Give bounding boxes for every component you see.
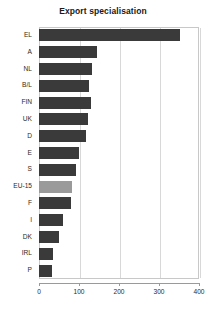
bar-row <box>39 128 199 145</box>
bar-row <box>39 178 199 195</box>
y-axis-label-nl: NL <box>24 61 32 78</box>
bar-dk <box>39 231 59 243</box>
bar-row <box>39 145 199 162</box>
x-tick-mark-100 <box>79 283 80 286</box>
y-axis-label-fin: FIN <box>21 94 32 111</box>
bar-row <box>39 161 199 178</box>
y-axis-label-e: E <box>28 145 32 162</box>
y-axis-label-el: EL <box>24 27 32 44</box>
x-tick-mark-200 <box>119 283 120 286</box>
bar-row <box>39 77 199 94</box>
bar-el <box>39 29 180 41</box>
bar-row <box>39 229 199 246</box>
y-axis-label-p: P <box>28 262 32 279</box>
bar-irl <box>39 248 53 260</box>
chart-title: Export specialisation <box>0 6 206 16</box>
y-axis-label-s: S <box>28 161 32 178</box>
x-tick-label-200: 200 <box>113 288 124 295</box>
chart-screenshot: Export specialisation ELANLB/LFINUKDESEU… <box>0 0 206 309</box>
bar-e <box>39 147 79 159</box>
bar-row <box>39 94 199 111</box>
y-axis-label-i: I <box>30 212 32 229</box>
bar-row <box>39 212 199 229</box>
x-tick-label-300: 300 <box>153 288 164 295</box>
bars-layer <box>39 27 199 279</box>
bar-row <box>39 262 199 279</box>
y-axis-label-b-l: B/L <box>22 77 32 94</box>
bar-row <box>39 61 199 78</box>
x-tick-mark-400 <box>199 283 200 286</box>
bar-s <box>39 164 76 176</box>
bar-row <box>39 27 199 44</box>
y-axis-label-irl: IRL <box>22 245 32 262</box>
y-axis-label-f: F <box>28 195 32 212</box>
y-axis-label-a: A <box>28 44 32 61</box>
x-tick-label-0: 0 <box>37 288 41 295</box>
y-axis-labels: ELANLB/LFINUKDESEU-15FIDKIRLP <box>0 27 36 279</box>
bar-eu-15 <box>39 181 72 193</box>
bar-row <box>39 245 199 262</box>
bar-row <box>39 111 199 128</box>
x-tick-label-400: 400 <box>193 288 204 295</box>
y-axis-label-eu-15: EU-15 <box>13 178 32 195</box>
bar-uk <box>39 113 88 125</box>
bar-f <box>39 197 71 209</box>
gridline-x-400 <box>200 28 201 278</box>
bar-p <box>39 265 52 277</box>
x-tick-mark-0 <box>39 283 40 286</box>
y-axis-label-d: D <box>27 128 32 145</box>
y-axis-label-dk: DK <box>23 229 32 246</box>
x-tick-mark-300 <box>159 283 160 286</box>
bar-b-l <box>39 80 89 92</box>
x-tick-label-100: 100 <box>73 288 84 295</box>
y-axis-label-uk: UK <box>23 111 32 128</box>
bar-nl <box>39 63 92 75</box>
bar-fin <box>39 97 91 109</box>
bar-row <box>39 195 199 212</box>
bar-a <box>39 46 97 58</box>
bar-row <box>39 44 199 61</box>
bar-i <box>39 214 63 226</box>
bar-d <box>39 130 86 142</box>
